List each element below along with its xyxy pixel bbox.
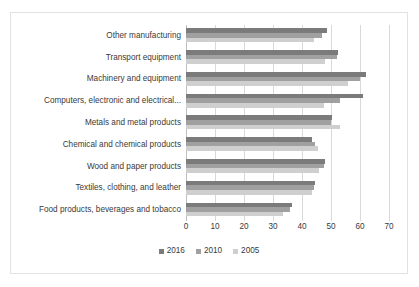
bar-2005 bbox=[186, 125, 340, 130]
legend-label: 2016 bbox=[167, 247, 185, 255]
x-tick-label: 0 bbox=[184, 223, 189, 231]
x-tick-label: 70 bbox=[384, 223, 393, 231]
x-tick-label: 50 bbox=[326, 223, 335, 231]
legend-swatch-icon bbox=[159, 249, 164, 254]
bar-2005 bbox=[186, 59, 325, 64]
legend-swatch-icon bbox=[196, 249, 201, 254]
category-label: Textiles, clothing, and leather bbox=[75, 184, 181, 192]
category-row: Food products, beverages and tobacco bbox=[186, 199, 389, 221]
category-label: Wood and paper products bbox=[87, 162, 181, 170]
bar-2005 bbox=[186, 81, 348, 86]
bar-2005 bbox=[186, 103, 324, 108]
category-row: Wood and paper products bbox=[186, 156, 389, 178]
category-label: Computers, electronic and electrical... bbox=[44, 97, 181, 105]
category-row: Textiles, clothing, and leather bbox=[186, 177, 389, 199]
category-label: Food products, beverages and tobacco bbox=[39, 206, 181, 214]
chart-frame: Other manufacturingTransport equipmentMa… bbox=[10, 12, 408, 274]
category-row: Metals and metal products bbox=[186, 112, 389, 134]
x-tick-label: 40 bbox=[297, 223, 306, 231]
legend-swatch-icon bbox=[233, 249, 238, 254]
bar-2005 bbox=[186, 38, 314, 43]
category-row: Other manufacturing bbox=[186, 25, 389, 47]
bar-2005 bbox=[186, 190, 312, 195]
category-row: Computers, electronic and electrical... bbox=[186, 90, 389, 112]
bar-2005 bbox=[186, 146, 318, 151]
category-label: Transport equipment bbox=[106, 54, 181, 62]
category-label: Machinery and equipment bbox=[87, 75, 181, 83]
category-label: Chemical and chemical products bbox=[63, 141, 181, 149]
x-axis-tick-labels: 010203040506070 bbox=[186, 223, 389, 237]
category-label: Metals and metal products bbox=[85, 119, 181, 127]
category-label: Other manufacturing bbox=[106, 32, 181, 40]
category-row: Transport equipment bbox=[186, 47, 389, 69]
plot-area: Other manufacturingTransport equipmentMa… bbox=[186, 25, 389, 221]
legend-item-2005[interactable]: 2005 bbox=[233, 247, 259, 255]
legend-label: 2005 bbox=[241, 247, 259, 255]
legend-item-2010[interactable]: 2010 bbox=[196, 247, 222, 255]
category-row: Chemical and chemical products bbox=[186, 134, 389, 156]
x-tick-label: 30 bbox=[268, 223, 277, 231]
bar-2005 bbox=[186, 168, 319, 173]
x-tick-label: 60 bbox=[355, 223, 364, 231]
legend-label: 2010 bbox=[204, 247, 222, 255]
x-tick-label: 10 bbox=[210, 223, 219, 231]
bar-2005 bbox=[186, 212, 283, 217]
chart-legend: 201620102005 bbox=[11, 247, 407, 255]
x-tick-label: 20 bbox=[239, 223, 248, 231]
gridline-70 bbox=[389, 25, 390, 221]
category-row: Machinery and equipment bbox=[186, 69, 389, 91]
legend-item-2016[interactable]: 2016 bbox=[159, 247, 185, 255]
